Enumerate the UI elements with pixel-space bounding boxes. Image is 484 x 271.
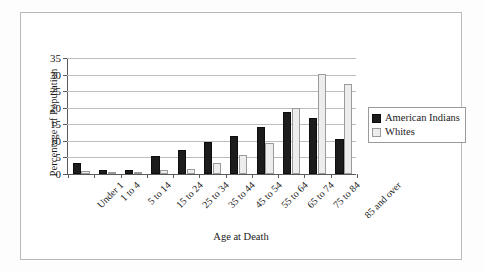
- bar: [73, 163, 81, 174]
- x-axis-tick-label: 15 to 24: [174, 180, 204, 210]
- chart-frame: Percentage of Population 05101520253035 …: [20, 12, 462, 260]
- chart-figure: Percentage of Population 05101520253035 …: [0, 0, 484, 271]
- bar: [283, 112, 291, 174]
- bar: [335, 139, 343, 174]
- y-axis-tick-label: 35: [50, 53, 61, 64]
- legend-swatch-whites-icon: [372, 128, 381, 137]
- bar-group: [304, 58, 330, 174]
- bar: [265, 143, 273, 174]
- bar: [178, 150, 186, 174]
- x-axis-tick-label: 55 to 64: [279, 180, 309, 210]
- legend-label: American Indians: [385, 113, 460, 124]
- legend-item[interactable]: Whites: [372, 125, 460, 139]
- bar-group: [278, 58, 304, 174]
- y-axis-tick-label: 0: [56, 169, 62, 180]
- bar: [318, 74, 326, 174]
- bar-group: [226, 58, 252, 174]
- bar-group: [147, 58, 173, 174]
- legend-item[interactable]: American Indians: [372, 111, 460, 125]
- bar-group: [331, 58, 357, 174]
- bars-layer: [68, 58, 356, 174]
- plot-area: 05101520253035: [67, 58, 356, 174]
- x-axis-tick-label: 35 to 44: [227, 180, 257, 210]
- bar-group: [94, 58, 120, 174]
- y-axis-tick-label: 5: [56, 152, 62, 163]
- x-axis-tick: [357, 174, 358, 178]
- bar: [239, 155, 247, 174]
- y-axis-tick: [63, 141, 67, 142]
- y-axis-tick-label: 15: [50, 119, 61, 130]
- x-axis-tick-label: 75 to 84: [332, 180, 362, 210]
- y-axis-tick-label: 30: [50, 70, 61, 81]
- x-axis-title: Age at Death: [21, 231, 461, 242]
- chart-legend: American IndiansWhites: [368, 107, 466, 143]
- legend-swatch-american-indians-icon: [372, 114, 381, 123]
- bar-group: [121, 58, 147, 174]
- bar-group: [68, 58, 94, 174]
- y-axis-tick: [63, 75, 67, 76]
- x-axis-tick-label: 65 to 74: [306, 180, 336, 210]
- y-axis-tick: [63, 124, 67, 125]
- bar: [213, 163, 221, 174]
- bar-group: [199, 58, 225, 174]
- y-axis-tick: [63, 91, 67, 92]
- y-axis-tick-label: 25: [50, 86, 61, 97]
- bar-group: [173, 58, 199, 174]
- bar: [309, 118, 317, 174]
- bar: [257, 127, 265, 174]
- y-axis-tick-label: 20: [50, 103, 61, 114]
- x-axis-tick-label: 5 to 14: [147, 180, 174, 207]
- bar: [292, 108, 300, 174]
- x-axis-tick-label: 85 and over: [362, 180, 402, 220]
- bar: [230, 136, 238, 174]
- y-axis-tick: [63, 108, 67, 109]
- x-axis-tick-label: 25 to 34: [201, 180, 231, 210]
- x-axis-tick-label: 45 to 54: [253, 180, 283, 210]
- bar-group-end: [357, 58, 358, 174]
- bar-group: [252, 58, 278, 174]
- bar: [344, 84, 352, 174]
- bar: [204, 142, 212, 174]
- y-axis-tick: [63, 58, 67, 59]
- y-axis-tick: [63, 157, 67, 158]
- bar: [151, 156, 159, 174]
- legend-label: Whites: [385, 127, 415, 138]
- y-axis-tick-label: 10: [50, 136, 61, 147]
